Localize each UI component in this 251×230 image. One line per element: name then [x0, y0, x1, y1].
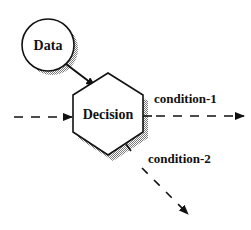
condition-1-label: condition-1	[154, 91, 217, 106]
diagram-canvas: Data Decision condition-1 condition-2	[0, 0, 251, 230]
data-node-label: Data	[34, 38, 63, 53]
condition-2-arrow	[142, 168, 188, 214]
condition-2-label: condition-2	[148, 151, 211, 166]
data-to-decision-arrow	[66, 64, 95, 86]
flow-diagram: Data Decision condition-1 condition-2	[0, 0, 251, 230]
data-node[interactable]: Data	[22, 19, 74, 71]
decision-node-label: Decision	[83, 107, 134, 122]
